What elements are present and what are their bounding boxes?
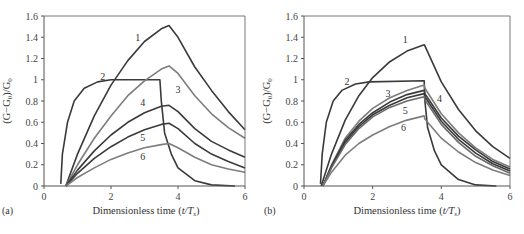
y-tick-label: 1.6 xyxy=(286,11,299,22)
series-label-1: 1 xyxy=(403,34,408,45)
series-line-5 xyxy=(66,123,245,186)
x-tick-label: 2 xyxy=(109,191,114,202)
y-tick-label: 1.6 xyxy=(26,11,39,22)
y-tick-label: 1 xyxy=(293,74,298,85)
y-tick-label: 0.8 xyxy=(286,96,299,107)
plot-area-a: 123456 xyxy=(61,26,245,186)
series-line-5 xyxy=(323,94,510,186)
series-line-6 xyxy=(323,116,510,186)
series-line-2 xyxy=(321,81,497,186)
series-label-5: 5 xyxy=(403,105,408,116)
panel-label-b: (b) xyxy=(264,205,276,217)
series-label-2: 2 xyxy=(100,71,105,82)
plot-area-b: 123456 xyxy=(321,34,511,186)
x-tick-label: 2 xyxy=(370,191,375,202)
x-tick-label: 4 xyxy=(176,191,181,202)
x-tick-label: 6 xyxy=(508,191,513,202)
series-label-3: 3 xyxy=(176,84,181,95)
x-tick-label: 6 xyxy=(243,191,248,202)
series-label-5: 5 xyxy=(140,132,145,143)
y-tick-label: 0.2 xyxy=(26,159,39,170)
figure: 123456 00.20.40.60.811.21.41.60246 (a) D… xyxy=(0,0,524,234)
axes-b: 00.20.40.60.811.21.41.60246 xyxy=(286,11,513,203)
series-label-6: 6 xyxy=(401,122,406,133)
series-line-1 xyxy=(66,26,245,186)
y-tick-label: 0.4 xyxy=(26,138,39,149)
series-label-6: 6 xyxy=(140,151,145,162)
x-tick-label: 0 xyxy=(302,191,307,202)
panel-label-a: (a) xyxy=(2,205,13,217)
y-tick-label: 1.4 xyxy=(26,32,39,43)
x-axis-label-a: Dimensionless time (t/Ts) xyxy=(92,205,200,218)
y-tick-label: 0 xyxy=(293,181,298,192)
series-label-3: 3 xyxy=(386,88,391,99)
y-tick-label: 1 xyxy=(33,74,38,85)
series-label-2: 2 xyxy=(344,76,349,87)
y-tick-label: 1.2 xyxy=(286,53,299,64)
y-tick-label: 0.4 xyxy=(286,138,299,149)
y-tick-label: 0.8 xyxy=(26,96,39,107)
series-line-6 xyxy=(66,144,245,187)
series-label-4: 4 xyxy=(437,93,442,104)
chart-panel-a: 123456 00.20.40.60.811.21.41.60246 (a) D… xyxy=(1,11,248,219)
y-tick-label: 1.4 xyxy=(286,32,299,43)
series-label-1: 1 xyxy=(135,32,140,43)
y-tick-label: 0.2 xyxy=(286,159,299,170)
y-tick-label: 1.2 xyxy=(26,53,39,64)
chart-panel-b: 123456 00.20.40.60.811.21.41.60246 (b) D… xyxy=(261,11,513,219)
x-tick-label: 4 xyxy=(439,191,444,202)
y-tick-label: 0 xyxy=(33,181,38,192)
y-axis-label-b: (G−G0)/G0 xyxy=(261,78,274,124)
y-tick-label: 0.6 xyxy=(26,117,39,128)
x-axis-label-b: Dimensionless time (t/Ts) xyxy=(353,205,461,218)
y-tick-label: 0.6 xyxy=(286,117,299,128)
y-axis-label-a: (G−G0)/G0 xyxy=(1,78,14,124)
x-tick-label: 0 xyxy=(42,191,47,202)
series-label-4: 4 xyxy=(140,97,145,108)
